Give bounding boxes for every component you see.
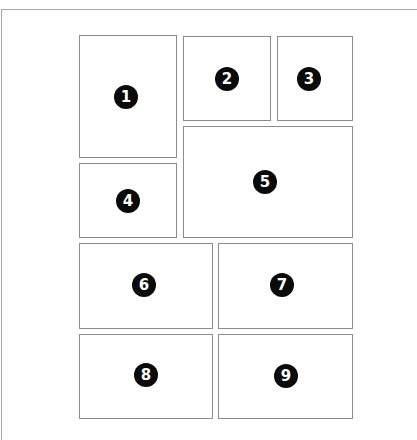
- panel-3-number-badge: 3: [297, 67, 321, 91]
- panel-1-number-badge: 1: [114, 85, 138, 109]
- panel-8-number-badge: 8: [134, 363, 158, 387]
- panel-4-number-badge: 4: [116, 189, 140, 213]
- panel-9-number-badge: 9: [274, 364, 298, 388]
- panel-5-number-badge: 5: [253, 170, 277, 194]
- panel-7-number-badge: 7: [270, 273, 294, 297]
- frame-top-rule: [1, 9, 417, 10]
- panel-2-number-badge: 2: [215, 67, 239, 91]
- panel-6-number-badge: 6: [132, 273, 156, 297]
- frame-left-rule: [1, 9, 2, 440]
